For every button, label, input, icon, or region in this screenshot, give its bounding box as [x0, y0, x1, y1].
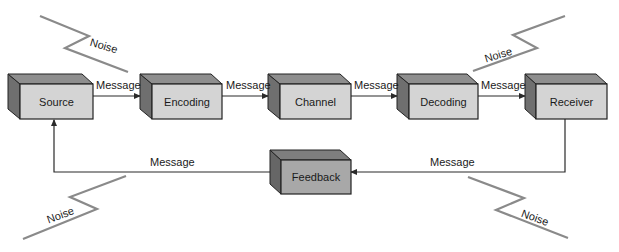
communication-diagram: Source Encoding Channel Decoding Receive… [0, 0, 619, 252]
edge-label-decoding-receiver: Message [481, 79, 526, 91]
edge-label-source-encoding: Message [96, 79, 141, 91]
edge-label-encoding-channel: Message [226, 79, 271, 91]
noise-bottom-left-icon [23, 176, 126, 239]
node-label-receiver: Receiver [536, 96, 607, 108]
noise-bottom-right-icon [468, 177, 568, 238]
node-label-channel: Channel [280, 96, 351, 108]
edge-label-channel-decoding: Message [354, 79, 399, 91]
edge-label-feedback-source: Message [150, 156, 195, 168]
node-label-decoding: Decoding [409, 96, 478, 108]
node-label-feedback: Feedback [281, 171, 351, 183]
edge-label-receiver-feedback: Message [430, 156, 475, 168]
node-label-encoding: Encoding [152, 96, 222, 108]
node-label-source: Source [20, 96, 93, 108]
